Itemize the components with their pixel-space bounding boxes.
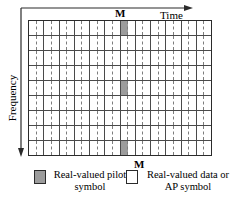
grid-cell-data	[174, 141, 181, 155]
grid-cell-data	[75, 111, 83, 125]
grid-cell-data	[159, 66, 166, 80]
grid-cell	[151, 141, 166, 155]
grid-cell-data	[75, 51, 83, 65]
grid-cell-data	[159, 96, 166, 110]
grid-cell-data	[44, 126, 52, 140]
grid-cell	[121, 111, 136, 125]
grid-cell-data	[128, 66, 135, 80]
grid-cell-data	[151, 51, 159, 65]
grid-cell-data	[166, 96, 174, 110]
grid-cell-data	[143, 111, 150, 125]
grid-cell-data	[189, 36, 196, 50]
grid-cell-data	[52, 141, 59, 155]
grid-cell	[197, 141, 211, 155]
grid-cell	[151, 51, 166, 65]
grid-cell	[29, 96, 44, 110]
grid-cell-data	[60, 51, 68, 65]
grid-cell-data	[75, 141, 83, 155]
figure-container: Time Frequency M M Real-valued pilot sym…	[0, 0, 239, 201]
grid-cell-data	[159, 51, 166, 65]
grid-cell	[182, 111, 197, 125]
grid-cell	[136, 141, 151, 155]
grid-cell-data	[44, 36, 52, 50]
grid-cell	[136, 96, 151, 110]
grid-cell-data	[166, 66, 174, 80]
grid-cell-data	[204, 51, 211, 65]
grid-cell-data	[98, 126, 105, 140]
grid-cell-data	[128, 36, 135, 50]
grid-cell-data	[136, 141, 144, 155]
grid-cell-data	[29, 36, 37, 50]
grid-cell	[60, 66, 75, 80]
grid-cell-data	[67, 111, 74, 125]
grid-cell-data	[174, 66, 181, 80]
grid-cell-data	[29, 111, 37, 125]
legend-item-pilot: Real-valued pilot symbol	[34, 169, 129, 193]
grid-cell	[121, 141, 136, 155]
grid-cell-data	[189, 126, 196, 140]
grid-cell-data	[82, 81, 89, 95]
grid-row	[29, 36, 211, 51]
grid-cell	[166, 126, 181, 140]
grid-cell-data	[204, 36, 211, 50]
grid-cell-data	[189, 141, 196, 155]
grid-cell-data	[52, 111, 59, 125]
grid-cell-data	[60, 81, 68, 95]
grid-cell-data	[166, 111, 174, 125]
grid-cell	[44, 111, 59, 125]
grid-cell-pilot	[121, 81, 129, 95]
grid-cell-data	[75, 126, 83, 140]
grid-cell-data	[52, 36, 59, 50]
grid-cell	[182, 96, 197, 110]
grid-cell-data	[151, 36, 159, 50]
grid-row	[29, 141, 211, 155]
grid-cell	[60, 51, 75, 65]
grid-cell	[197, 51, 211, 65]
grid-cell-data	[113, 141, 120, 155]
grid-cell-data	[52, 66, 59, 80]
grid-cell-data	[174, 51, 181, 65]
grid-cell-data	[37, 96, 44, 110]
grid-cell-data	[182, 66, 190, 80]
grid-cell	[121, 21, 136, 35]
grid-cell	[75, 51, 90, 65]
grid-cell	[182, 126, 197, 140]
grid-cell-data	[29, 66, 37, 80]
grid-cell-data	[182, 126, 190, 140]
grid-cell-data	[128, 21, 135, 35]
grid-cell	[182, 81, 197, 95]
grid-cell-data	[98, 36, 105, 50]
grid-cell-data	[29, 96, 37, 110]
grid-cell-data	[52, 51, 59, 65]
grid-cell	[60, 36, 75, 50]
grid-cell-data	[166, 36, 174, 50]
grid-cell	[136, 111, 151, 125]
resource-grid	[28, 20, 212, 156]
resource-grid-rows	[29, 21, 211, 155]
grid-cell-data	[105, 51, 113, 65]
grid-cell-data	[44, 141, 52, 155]
grid-cell	[105, 21, 120, 35]
grid-cell-data	[159, 111, 166, 125]
grid-cell	[182, 36, 197, 50]
grid-cell-data	[98, 96, 105, 110]
grid-cell	[151, 81, 166, 95]
grid-cell-data	[75, 21, 83, 35]
grid-cell-data	[136, 81, 144, 95]
grid-cell	[90, 141, 105, 155]
grid-cell-data	[197, 51, 205, 65]
grid-cell	[151, 96, 166, 110]
grid-cell-data	[67, 66, 74, 80]
grid-cell-data	[159, 36, 166, 50]
grid-cell-data	[182, 36, 190, 50]
grid-cell-data	[136, 96, 144, 110]
grid-cell-data	[90, 66, 98, 80]
grid-cell-data	[121, 51, 129, 65]
grid-cell-data	[121, 111, 129, 125]
grid-cell-data	[197, 141, 205, 155]
grid-cell-data	[52, 126, 59, 140]
grid-cell-data	[121, 36, 129, 50]
grid-cell-data	[29, 21, 37, 35]
grid-cell-data	[166, 141, 174, 155]
grid-cell	[29, 126, 44, 140]
